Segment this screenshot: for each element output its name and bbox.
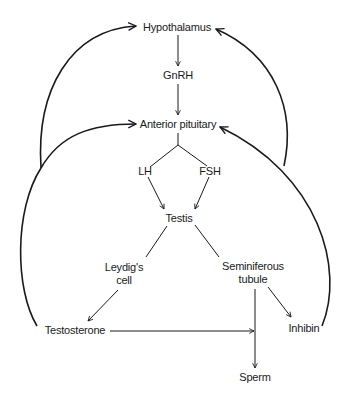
node-lh: LH [138, 165, 152, 178]
node-anterior-pituitary-label: Anterior pituitary [140, 118, 217, 131]
diagram-connectors [0, 0, 349, 407]
node-leydig-line1: Leydig's [105, 261, 143, 274]
feedback-arc-testosterone-trunk [21, 168, 41, 326]
node-leydig-line2: cell [105, 274, 143, 287]
node-hypothalamus-label: Hypothalamus [143, 21, 211, 34]
node-inhibin-label: Inhibin [288, 322, 319, 335]
node-sperm: Sperm [239, 371, 270, 384]
node-gnrh: GnRH [163, 69, 193, 82]
branch-to-fsh [178, 145, 207, 166]
branch-to-lh [150, 145, 178, 167]
node-lh-label: LH [138, 165, 152, 178]
node-sperm-label: Sperm [239, 371, 270, 384]
arrow-fsh-to-testis [195, 177, 209, 209]
node-anterior-pituitary: Anterior pituitary [140, 118, 217, 131]
node-testis-label: Testis [166, 212, 193, 225]
node-testis: Testis [166, 212, 193, 225]
node-leydig-cell: Leydig's cell [105, 261, 143, 287]
arrow-leydig-to-testosterone [88, 290, 118, 321]
node-gnrh-label: GnRH [163, 69, 193, 82]
node-hypothalamus: Hypothalamus [143, 21, 211, 34]
node-seminiferous-tubule: Seminiferous tubule [222, 260, 284, 286]
node-inhibin: Inhibin [288, 322, 319, 335]
arrow-tubule-to-inhibin [268, 287, 291, 317]
arrow-lh-to-testis [148, 177, 164, 209]
feedback-arc-testosterone-to-hypothalamus [41, 26, 136, 168]
node-seminiferous-line2: tubule [222, 273, 284, 286]
line-testis-to-leydig [146, 226, 167, 257]
node-fsh: FSH [199, 165, 220, 178]
node-testosterone-label: Testosterone [45, 324, 106, 337]
node-fsh-label: FSH [199, 165, 220, 178]
node-testosterone: Testosterone [45, 324, 106, 337]
line-testis-to-seminiferous [195, 225, 219, 257]
feedback-arc-testosterone-to-pituitary [41, 124, 136, 168]
node-seminiferous-line1: Seminiferous [222, 260, 284, 273]
hormone-regulation-diagram: Hypothalamus GnRH Anterior pituitary LH … [0, 0, 349, 407]
